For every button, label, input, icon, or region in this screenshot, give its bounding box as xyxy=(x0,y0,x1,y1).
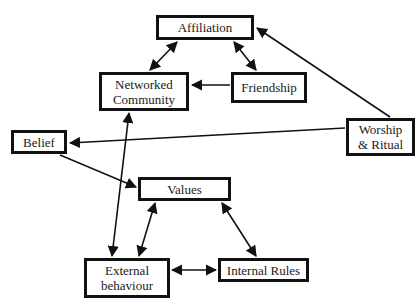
node-networked-community: Networked Community xyxy=(99,72,189,111)
node-belief: Belief xyxy=(11,130,67,154)
node-friendship: Friendship xyxy=(231,72,307,103)
node-external-behaviour: External behaviour xyxy=(84,258,170,298)
edge-networked-external xyxy=(112,113,129,256)
node-affiliation: Affiliation xyxy=(156,15,254,40)
edge-networked-affiliation xyxy=(150,42,177,70)
node-internal-rules: Internal Rules xyxy=(218,258,309,282)
edge-friendship-affiliation xyxy=(234,42,256,70)
edge-values-internal xyxy=(222,203,256,256)
node-worship-ritual: Worship & Ritual xyxy=(346,118,415,156)
edge-belief-values xyxy=(60,155,136,187)
edge-values-external xyxy=(139,203,155,256)
node-values: Values xyxy=(138,177,231,201)
edge-worship-belief xyxy=(70,128,345,143)
